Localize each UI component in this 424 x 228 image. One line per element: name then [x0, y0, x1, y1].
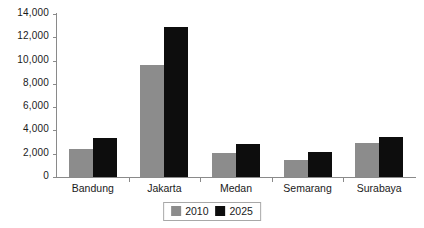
legend-item-2025: 2025 — [216, 205, 253, 217]
legend-swatch-2025 — [216, 206, 226, 216]
legend-label-2010: 2010 — [185, 205, 208, 217]
bar-chart: 02,0004,0006,0008,00010,00012,00014,000 … — [0, 0, 424, 228]
bar-semarang-2010 — [284, 160, 308, 177]
bar-group — [272, 14, 344, 177]
bar-group-bars — [57, 14, 129, 177]
legend-item-2010: 2010 — [171, 205, 208, 217]
bar-medan-2025 — [236, 144, 260, 177]
bar-group — [129, 14, 201, 177]
bar-group — [57, 14, 129, 177]
bar-group-bars — [343, 14, 415, 177]
chart-legend: 20102025 — [163, 202, 261, 221]
x-axis-label-medan: Medan — [200, 182, 272, 195]
y-axis-tick-label: 8,000 — [23, 77, 49, 88]
bar-group-bars — [200, 14, 272, 177]
legend-swatch-2010 — [171, 206, 181, 216]
bar-jakarta-2010 — [140, 65, 164, 177]
x-axis-label-semarang: Semarang — [272, 182, 344, 195]
x-axis-label-bandung: Bandung — [57, 182, 129, 195]
y-axis-tick-label: 10,000 — [17, 54, 49, 65]
y-axis-tick-label: 0 — [43, 170, 49, 181]
y-axis-tick-label: 2,000 — [23, 147, 49, 158]
y-axis-tick-label: 14,000 — [17, 7, 49, 18]
bar-group — [200, 14, 272, 177]
bar-medan-2010 — [212, 153, 236, 177]
legend-label-2025: 2025 — [230, 205, 253, 217]
y-axis-tick-label: 12,000 — [17, 30, 49, 41]
bar-bandung-2025 — [93, 138, 117, 177]
bar-group-bars — [272, 14, 344, 177]
x-axis-label-jakarta: Jakarta — [129, 182, 201, 195]
x-axis-label-surabaya: Surabaya — [343, 182, 415, 195]
bar-surabaya-2025 — [379, 137, 403, 177]
bar-jakarta-2025 — [164, 27, 188, 177]
y-axis-tick-label: 6,000 — [23, 100, 49, 111]
bar-group — [343, 14, 415, 177]
bar-bandung-2010 — [69, 149, 93, 177]
plot-area — [57, 14, 415, 177]
x-axis-line — [56, 177, 416, 178]
bar-group-bars — [129, 14, 201, 177]
y-axis-tick-label: 4,000 — [23, 123, 49, 134]
bar-surabaya-2010 — [355, 143, 379, 177]
bar-semarang-2025 — [308, 152, 332, 177]
